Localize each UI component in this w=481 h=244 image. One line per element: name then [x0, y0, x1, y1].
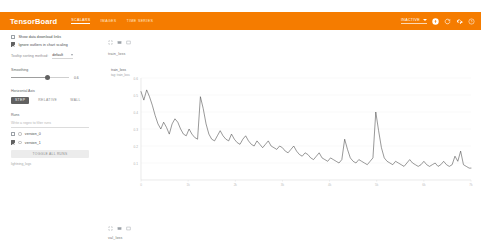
run-checkbox[interactable]: [11, 140, 15, 144]
ignore-outliers-label: Ignore outliers in chart scaling: [18, 43, 67, 47]
tooltip-sorting-row[interactable]: Tooltip sorting method: default: [11, 53, 92, 59]
runs-label: Runs: [11, 113, 92, 117]
run-color-dot: [18, 141, 21, 144]
tooltip-sorting-label: Tooltip sorting method:: [11, 54, 48, 58]
logdir-hint: lightning_logs: [11, 162, 92, 166]
app-brand: TensorBoard: [10, 17, 57, 26]
expand-icon[interactable]: [108, 40, 113, 45]
ignore-outliers-checkbox[interactable]: [11, 42, 15, 46]
brush-icon[interactable]: [117, 226, 122, 231]
chevron-down-icon: [71, 54, 73, 56]
top-bar-actions: INACTIVE: [401, 12, 475, 30]
settings-sidebar: Show data download links Ignore outliers…: [0, 30, 100, 244]
run-item-version-1[interactable]: version_1: [11, 140, 92, 144]
svg-text:5k: 5k: [375, 183, 379, 187]
show-download-links-label: Show data download links: [18, 35, 61, 39]
tooltip-sorting-select[interactable]: default: [52, 53, 73, 59]
smoothing-row: 0.6: [11, 76, 92, 80]
run-item-version-0[interactable]: version_0: [11, 132, 92, 136]
nav-tabs: SCALARS IMAGES TIME SERIES: [71, 12, 153, 30]
toggle-all-runs-button[interactable]: TOGGLE ALL RUNS: [11, 150, 89, 158]
run-selector[interactable]: INACTIVE: [401, 18, 427, 24]
svg-text:6k: 6k: [422, 183, 426, 187]
brush-icon[interactable]: [117, 40, 122, 45]
smoothing-label: Smoothing: [11, 68, 92, 72]
show-download-links-checkbox[interactable]: [11, 35, 15, 39]
horizontal-axis-label: Horizontal Axis: [11, 89, 92, 93]
svg-text:0.4: 0.4: [134, 111, 139, 115]
help-icon[interactable]: [468, 18, 475, 25]
smoothing-slider[interactable]: [11, 77, 69, 78]
svg-text:7k: 7k: [469, 183, 473, 187]
tab-scalars[interactable]: SCALARS: [71, 18, 90, 24]
run-color-dot: [18, 132, 21, 135]
card-toolbar: [108, 40, 477, 45]
smoothing-slider-knob[interactable]: [45, 75, 50, 80]
runs-filter-input[interactable]: Write a regex to filter runs: [11, 121, 89, 128]
chart-train-loss[interactable]: train_loss tag: train_loss 0.60.50.40.30…: [105, 68, 477, 208]
run-label: version_1: [25, 141, 41, 145]
axis-option-wall[interactable]: WALL: [66, 97, 85, 104]
svg-text:3k: 3k: [281, 183, 285, 187]
expand-icon[interactable]: [108, 226, 113, 231]
svg-text:0.5: 0.5: [134, 94, 139, 98]
svg-text:0.3: 0.3: [134, 128, 139, 132]
axis-option-step[interactable]: STEP: [11, 97, 29, 104]
scalar-card-train-loss: train_loss train_loss tag: train_loss 0.…: [105, 40, 477, 56]
run-label: version_0: [25, 132, 41, 136]
main-content: train_loss train_loss tag: train_loss 0.…: [100, 30, 481, 244]
run-selector-value: INACTIVE: [401, 18, 420, 22]
chevron-down-icon: [423, 19, 427, 21]
svg-text:0.6: 0.6: [134, 77, 139, 81]
group-label-train-loss: train_loss: [108, 52, 477, 56]
tensorboard-app: TensorBoard SCALARS IMAGES TIME SERIES I…: [0, 0, 481, 244]
group-label-val-loss: val_loss: [108, 236, 123, 240]
svg-text:4k: 4k: [328, 183, 332, 187]
svg-text:0.2: 0.2: [134, 145, 139, 149]
horizontal-axis-options: STEP RELATIVE WALL: [11, 97, 92, 104]
settings-icon[interactable]: [456, 18, 463, 25]
smoothing-slider-fill: [11, 77, 48, 78]
smoothing-value: 0.6: [74, 76, 79, 80]
ignore-outliers-row[interactable]: Ignore outliers in chart scaling: [11, 42, 92, 46]
top-bar: TensorBoard SCALARS IMAGES TIME SERIES I…: [0, 12, 481, 30]
upload-icon[interactable]: [432, 18, 439, 25]
tab-images[interactable]: IMAGES: [100, 19, 116, 24]
fullscreen-icon[interactable]: [126, 40, 131, 45]
svg-text:1k: 1k: [187, 183, 191, 187]
tooltip-sorting-value: default: [52, 53, 63, 57]
run-checkbox[interactable]: [11, 132, 15, 136]
tab-time-series[interactable]: TIME SERIES: [127, 19, 154, 24]
show-download-links-row[interactable]: Show data download links: [11, 35, 92, 39]
svg-text:0: 0: [140, 183, 142, 187]
svg-text:2k: 2k: [234, 183, 238, 187]
refresh-icon[interactable]: [444, 18, 451, 25]
chart-svg: 0.60.50.40.30.20.101k2k3k4k5k6k7k: [105, 68, 477, 208]
svg-text:0.1: 0.1: [134, 162, 139, 166]
axis-option-relative[interactable]: RELATIVE: [34, 97, 61, 104]
fullscreen-icon[interactable]: [126, 226, 131, 231]
bottom-card-toolbar: [108, 226, 131, 231]
